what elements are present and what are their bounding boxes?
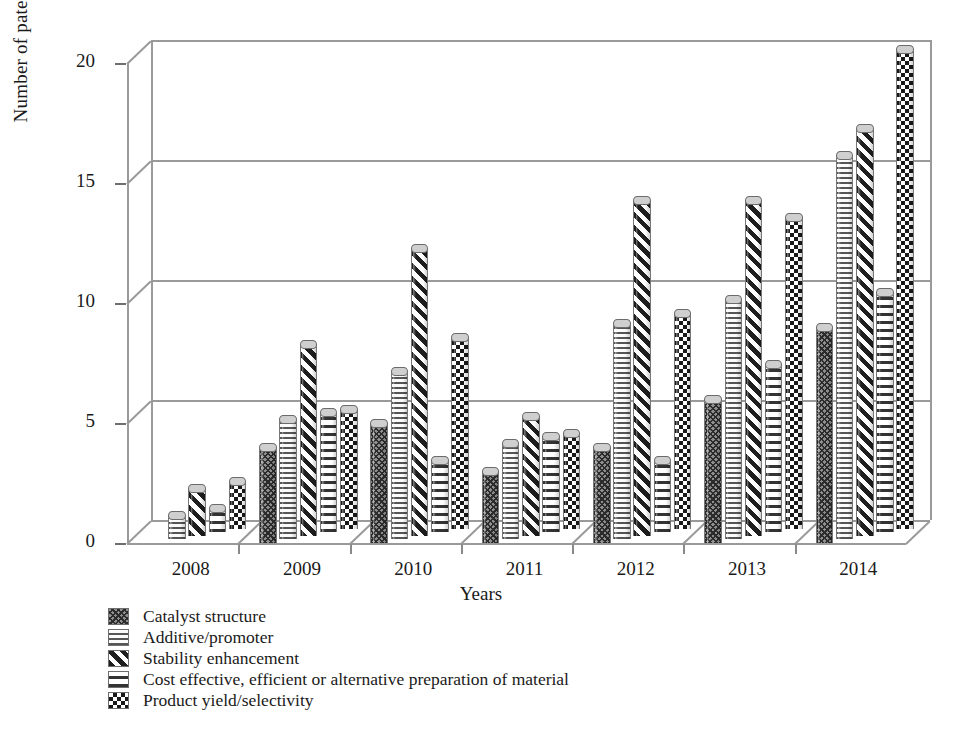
bar-2014-diagonal[interactable] bbox=[856, 128, 874, 536]
bar-top-cap bbox=[633, 196, 651, 205]
bar-fill bbox=[675, 313, 691, 529]
bar-2008-dash-sparse[interactable] bbox=[209, 508, 227, 532]
legend-item-checker[interactable]: Product yield/selectivity bbox=[108, 690, 569, 711]
legend-swatch-diagonal-icon bbox=[108, 650, 129, 667]
legend-item-crosshatch[interactable]: Catalyst structure bbox=[108, 606, 569, 627]
bar-2009-diagonal[interactable] bbox=[300, 344, 318, 536]
bar-2009-checker[interactable] bbox=[340, 409, 358, 529]
bar-top-cap bbox=[188, 484, 206, 493]
bar-2013-diagonal[interactable] bbox=[745, 200, 763, 536]
bar-top-cap bbox=[785, 213, 803, 222]
bar-2014-checker[interactable] bbox=[896, 49, 914, 529]
bar-top-cap bbox=[896, 45, 914, 54]
bar-2010-diagonal[interactable] bbox=[411, 248, 429, 536]
bar-fill bbox=[817, 327, 833, 543]
legend-label: Additive/promoter bbox=[143, 628, 273, 647]
bar-2012-crosshatch[interactable] bbox=[593, 447, 611, 543]
bar-2008-diagonal[interactable] bbox=[188, 488, 206, 536]
bar-top-cap bbox=[876, 288, 894, 297]
bar-2012-checker[interactable] bbox=[674, 313, 692, 529]
bar-fill bbox=[452, 337, 468, 529]
bar-top-cap bbox=[836, 151, 854, 160]
bar-fill bbox=[837, 155, 853, 539]
bar-2012-dash-sparse[interactable] bbox=[654, 460, 672, 532]
x-tick-label-2012: 2012 bbox=[591, 558, 681, 580]
x-axis-title: Years bbox=[0, 583, 962, 605]
depth-connector-10 bbox=[126, 280, 151, 304]
legend-item-diagonal[interactable]: Stability enhancement bbox=[108, 648, 569, 669]
bar-top-cap bbox=[300, 340, 318, 349]
bar-top-cap bbox=[856, 124, 874, 133]
x-tick-label-2009: 2009 bbox=[257, 558, 347, 580]
bar-fill bbox=[594, 447, 610, 543]
bar-2008-dots-light[interactable] bbox=[168, 515, 186, 539]
bar-top-cap bbox=[654, 456, 672, 465]
bar-fill bbox=[371, 423, 387, 543]
bar-2011-diagonal[interactable] bbox=[522, 416, 540, 536]
bar-fill bbox=[634, 200, 650, 536]
bar-2009-crosshatch[interactable] bbox=[259, 447, 277, 543]
bar-2014-crosshatch[interactable] bbox=[816, 327, 834, 543]
y-tick-label-15: 15 bbox=[55, 170, 95, 192]
y-tick-label-10: 10 bbox=[55, 290, 95, 312]
bar-top-cap bbox=[451, 333, 469, 342]
bar-top-cap bbox=[482, 467, 500, 476]
bar-top-cap bbox=[229, 477, 247, 486]
bar-2013-crosshatch[interactable] bbox=[704, 399, 722, 543]
bar-fill bbox=[564, 433, 580, 529]
bar-2012-diagonal[interactable] bbox=[633, 200, 651, 536]
bar-fill bbox=[260, 447, 276, 543]
bar-fill bbox=[655, 460, 671, 532]
bar-2012-dots-light[interactable] bbox=[613, 323, 631, 539]
legend-label: Stability enhancement bbox=[143, 649, 299, 668]
bar-fill bbox=[321, 412, 337, 532]
bar-top-cap bbox=[391, 367, 409, 376]
legend-item-dots-light[interactable]: Additive/promoter bbox=[108, 627, 569, 648]
y-tick-label-0: 0 bbox=[55, 530, 95, 552]
bar-2011-dots-light[interactable] bbox=[502, 443, 520, 539]
legend-item-dash-sparse[interactable]: Cost effective, efficient or alternative… bbox=[108, 669, 569, 690]
bar-2014-dots-light[interactable] bbox=[836, 155, 854, 539]
bar-top-cap bbox=[320, 408, 338, 417]
y-axis-front bbox=[127, 63, 129, 543]
bar-fill bbox=[432, 460, 448, 532]
bar-top-cap bbox=[704, 395, 722, 404]
bar-2009-dash-sparse[interactable] bbox=[320, 412, 338, 532]
bar-2011-crosshatch[interactable] bbox=[482, 471, 500, 543]
bar-top-cap bbox=[340, 405, 358, 414]
bar-2008-checker[interactable] bbox=[229, 481, 247, 529]
bar-2010-checker[interactable] bbox=[451, 337, 469, 529]
bar-2014-dash-sparse[interactable] bbox=[876, 292, 894, 532]
bar-top-cap bbox=[522, 412, 540, 421]
bar-fill bbox=[280, 419, 296, 539]
bar-top-cap bbox=[502, 439, 520, 448]
bar-fill bbox=[786, 217, 802, 529]
bar-top-cap bbox=[745, 196, 763, 205]
legend-swatch-checker-icon bbox=[108, 692, 129, 709]
x-tick-label-2010: 2010 bbox=[368, 558, 458, 580]
legend-label: Catalyst structure bbox=[143, 607, 266, 626]
legend-swatch-dots-light-icon bbox=[108, 629, 129, 646]
y-axis-back bbox=[151, 40, 153, 520]
x-tick-label-2014: 2014 bbox=[813, 558, 903, 580]
depth-connector-0 bbox=[126, 520, 151, 544]
bar-fill bbox=[746, 200, 762, 536]
bar-2011-dash-sparse[interactable] bbox=[542, 436, 560, 532]
bar-2010-dash-sparse[interactable] bbox=[431, 460, 449, 532]
bar-fill bbox=[392, 371, 408, 539]
bar-2013-dash-sparse[interactable] bbox=[765, 364, 783, 532]
bar-fill bbox=[483, 471, 499, 543]
bar-2013-checker[interactable] bbox=[785, 217, 803, 529]
legend-label: Product yield/selectivity bbox=[143, 691, 314, 710]
bar-top-cap bbox=[431, 456, 449, 465]
gridline-10 bbox=[151, 280, 930, 282]
bar-fill bbox=[341, 409, 357, 529]
bar-2010-crosshatch[interactable] bbox=[370, 423, 388, 543]
bar-top-cap bbox=[725, 295, 743, 304]
bar-2013-dots-light[interactable] bbox=[725, 299, 743, 539]
bar-2011-checker[interactable] bbox=[563, 433, 581, 529]
bar-2010-dots-light[interactable] bbox=[391, 371, 409, 539]
bar-top-cap bbox=[279, 415, 297, 424]
bar-top-cap bbox=[542, 432, 560, 441]
bar-2009-dots-light[interactable] bbox=[279, 419, 297, 539]
